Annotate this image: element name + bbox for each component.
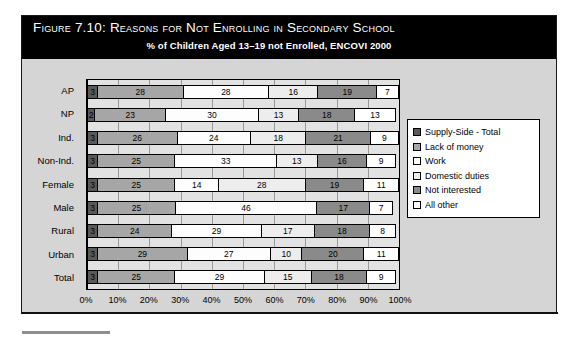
bar-value-label: 3 — [88, 86, 97, 99]
bar-value-label: 18 — [299, 109, 354, 122]
bar-value-label: 25 — [98, 179, 174, 192]
bar-segment: 16 — [318, 154, 368, 168]
bar-segment: 25 — [98, 178, 175, 192]
bar-value-label: 27 — [188, 248, 270, 261]
legend-label: All other — [425, 200, 458, 210]
plot-grid: 3282816197223301318133262418219325331316… — [86, 79, 400, 290]
page-title: Figure 7.10: Reasons for Not Enrolling i… — [33, 20, 395, 35]
gridline-100 — [399, 80, 400, 289]
bar-segment: 3 — [87, 270, 98, 284]
stacked-bar: 32546177 — [87, 201, 393, 215]
figure-screenshot: Figure 7.10: Reasons for Not Enrolling i… — [0, 0, 578, 347]
bar-value-label: 46 — [176, 202, 317, 215]
bar-value-label: 15 — [265, 271, 311, 284]
legend-item[interactable]: All other — [413, 198, 534, 213]
bar-segment: 15 — [265, 270, 312, 284]
bar-value-label: 25 — [98, 155, 174, 168]
bar-segment: 19 — [318, 85, 376, 99]
bar-value-label: 29 — [175, 271, 263, 284]
bar-segment: 23 — [95, 108, 166, 122]
bar-segment: 29 — [98, 247, 187, 261]
bar-segment: 13 — [259, 108, 300, 122]
category-label-total: Total — [32, 266, 80, 289]
bar-segment: 3 — [87, 201, 98, 215]
bar-value-label: 29 — [98, 248, 186, 261]
bar-row: 3242917188 — [87, 224, 399, 238]
bar-segment: 3 — [87, 178, 98, 192]
bar-segment: 25 — [98, 201, 175, 215]
bar-segment: 20 — [302, 247, 364, 261]
bar-segment: 24 — [178, 131, 251, 145]
bar-value-label: 23 — [95, 109, 165, 122]
legend-swatch-icon — [413, 128, 421, 136]
bar-value-label: 29 — [172, 225, 260, 238]
bar-segment: 18 — [251, 131, 306, 145]
bar-value-label: 14 — [175, 179, 218, 192]
bar-value-label: 13 — [355, 109, 395, 122]
bar-value-label: 30 — [166, 109, 257, 122]
bar-value-label: 28 — [184, 86, 269, 99]
bar-value-label: 8 — [370, 225, 394, 238]
bar-segment: 7 — [377, 85, 399, 99]
stacked-bar: 3262418219 — [87, 131, 399, 145]
bar-row: 3262418219 — [87, 131, 399, 145]
bar-row: 3253313169 — [87, 154, 399, 168]
legend-swatch-icon — [413, 157, 421, 165]
bar-value-label: 21 — [306, 132, 369, 145]
bar-value-label: 24 — [178, 132, 250, 145]
bar-value-label: 9 — [371, 132, 398, 145]
plot-area: APNPInd.Non-Ind.FemaleMaleRuralUrbanTota… — [22, 59, 556, 312]
legend-label: Domestic duties — [425, 171, 489, 181]
bar-segment: 8 — [370, 224, 395, 238]
bar-value-label: 3 — [88, 271, 97, 284]
bar-value-label: 3 — [88, 179, 97, 192]
bar-segment: 9 — [367, 154, 395, 168]
bar-row: 32927102011 — [87, 247, 399, 261]
legend-item[interactable]: Supply-Side - Total — [413, 125, 534, 140]
x-tick-100: 100% — [388, 295, 411, 305]
bar-segment: 30 — [166, 108, 258, 122]
bar-segment: 29 — [172, 224, 261, 238]
x-tick-10: 10% — [108, 295, 126, 305]
x-tick-90: 90% — [360, 295, 378, 305]
bar-segment: 10 — [271, 247, 303, 261]
section-divider — [21, 312, 558, 314]
bar-value-label: 3 — [88, 248, 97, 261]
bar-segment: 29 — [175, 270, 264, 284]
legend-item[interactable]: Not interested — [413, 183, 534, 198]
bar-value-label: 28 — [219, 179, 304, 192]
bar-segment: 28 — [219, 178, 305, 192]
x-tick-60: 60% — [265, 295, 283, 305]
bar-value-label: 25 — [98, 271, 174, 284]
bar-value-label: 9 — [367, 155, 394, 168]
legend-item[interactable]: Work — [413, 154, 534, 169]
bar-value-label: 19 — [318, 86, 375, 99]
legend-swatch-icon — [413, 186, 421, 194]
bar-segment: 18 — [312, 270, 368, 284]
bar-segment: 27 — [188, 247, 271, 261]
bar-value-label: 20 — [302, 248, 363, 261]
stacked-bar: 22330131813 — [87, 108, 396, 122]
footnote-rule — [22, 331, 110, 334]
legend-item[interactable]: Lack of money — [413, 140, 534, 155]
bar-value-label: 13 — [259, 109, 299, 122]
bar-segment: 25 — [98, 270, 175, 284]
bar-value-label: 3 — [88, 225, 97, 238]
bar-value-label: 11 — [364, 248, 398, 261]
bar-segment: 3 — [87, 154, 98, 168]
category-label-male: Male — [32, 196, 80, 219]
bar-value-label: 9 — [367, 271, 394, 284]
bar-segment: 7 — [370, 201, 392, 215]
bar-value-label: 7 — [377, 86, 398, 99]
legend-label: Not interested — [425, 185, 481, 195]
figure-container: Figure 7.10: Reasons for Not Enrolling i… — [21, 15, 557, 312]
legend-label: Lack of money — [425, 142, 484, 152]
bar-segment: 3 — [87, 85, 98, 99]
bar-row: 32546177 — [87, 201, 399, 215]
legend-item[interactable]: Domestic duties — [413, 169, 534, 184]
bar-value-label: 24 — [98, 225, 171, 238]
stacked-bar: 3242917188 — [87, 224, 396, 238]
bar-segment: 14 — [175, 178, 219, 192]
figure-subtitle: % of Children Aged 13–19 not Enrolled, E… — [22, 40, 556, 51]
bar-segment: 3 — [87, 131, 98, 145]
